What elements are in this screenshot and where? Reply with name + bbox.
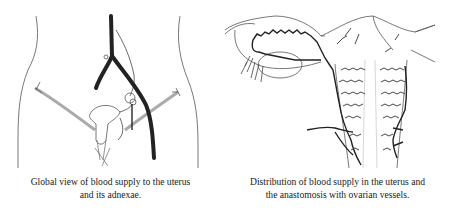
uterus-sides bbox=[335, 60, 407, 168]
caption-right-line2: the anastomosis with ovarian vessels. bbox=[225, 189, 450, 202]
ovary-left bbox=[258, 52, 302, 78]
left-iliac-vessel bbox=[96, 56, 112, 88]
uterus-illustration bbox=[225, 0, 450, 170]
caption-global-view: Global view of blood supply to the uteru… bbox=[8, 176, 213, 201]
pelvis-illustration bbox=[0, 0, 225, 170]
caption-right-line1: Distribution of blood supply in the uter… bbox=[225, 176, 450, 189]
caption-left-line2: and its adnexae. bbox=[8, 189, 213, 202]
caption-uterus-distribution: Distribution of blood supply in the uter… bbox=[225, 176, 450, 201]
figure-global-view bbox=[0, 0, 225, 170]
caption-left-line1: Global view of blood supply to the uteru… bbox=[8, 176, 213, 189]
body-outline-left bbox=[18, 16, 38, 168]
body-outline-right bbox=[178, 16, 198, 168]
uterus-fundus bbox=[321, 16, 435, 36]
figure-uterus-distribution bbox=[225, 0, 450, 170]
uterine-artery-right bbox=[393, 66, 407, 158]
aorta-vessel bbox=[111, 16, 112, 56]
fallopian-tube-left bbox=[225, 16, 325, 36]
